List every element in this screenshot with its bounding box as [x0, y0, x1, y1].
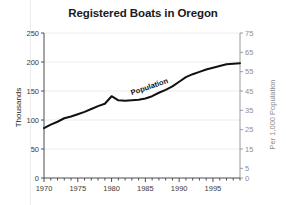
- y-tick-label-right: 65: [245, 48, 253, 57]
- y-tick-label-right: 35: [245, 106, 253, 115]
- y-tick-label-left: 150: [26, 87, 39, 96]
- plot-area: 050100150200250 0515253545556575 1970197…: [0, 0, 286, 205]
- y-tick-label-right: 0: [245, 174, 249, 183]
- y-tick-label-right: 5: [245, 164, 249, 173]
- series-lines: [44, 0, 240, 128]
- x-tick-label: 1990: [171, 184, 188, 193]
- x-axis: 197019751980198519901995: [36, 178, 240, 193]
- x-tick-label: 1970: [36, 184, 53, 193]
- y-tick-label-right: 75: [245, 29, 253, 38]
- series-inline-labels: Boats per 1,000 PopulationPopulation: [116, 0, 211, 97]
- y-axis-left: 050100150200250: [26, 29, 44, 183]
- series-label-1: Population: [130, 76, 170, 97]
- y-tick-label-left: 250: [26, 29, 39, 38]
- y-tick-label-right: 15: [245, 145, 253, 154]
- x-tick-label: 1980: [103, 184, 120, 193]
- y-tick-label-right: 45: [245, 87, 253, 96]
- x-tick-label: 1975: [69, 184, 86, 193]
- series-line: [44, 63, 240, 128]
- y-tick-label-left: 200: [26, 58, 39, 67]
- y-tick-label-right: 55: [245, 67, 253, 76]
- chart-canvas: Registered Boats in Oregon Thousands Per…: [0, 0, 286, 205]
- y-tick-label-left: 100: [26, 116, 39, 125]
- y-tick-label-left: 0: [35, 174, 39, 183]
- y-axis-right: 0515253545556575: [240, 29, 253, 183]
- y-tick-label-left: 50: [31, 145, 39, 154]
- x-tick-label: 1985: [137, 184, 154, 193]
- x-tick-label: 1995: [205, 184, 222, 193]
- y-tick-label-right: 25: [245, 125, 253, 134]
